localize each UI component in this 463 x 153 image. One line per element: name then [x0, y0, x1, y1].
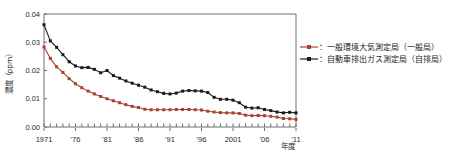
data-point-marker — [68, 77, 71, 80]
data-point-marker — [93, 68, 96, 71]
x-axis-tick-label: '91 — [165, 135, 175, 144]
legend-marker-swatch — [307, 45, 311, 49]
data-point-marker — [194, 89, 197, 92]
data-point-marker — [61, 71, 64, 74]
data-point-marker — [137, 84, 140, 87]
x-axis-unit-label: 年度 — [281, 141, 296, 151]
data-point-marker — [68, 60, 71, 63]
data-point-marker — [206, 110, 209, 113]
data-point-marker — [263, 114, 266, 117]
data-point-marker — [175, 92, 178, 95]
data-point-marker — [131, 82, 134, 85]
data-point-marker — [269, 115, 272, 118]
data-point-marker — [150, 88, 153, 91]
legend-item: ：一般環境大気測定局（一般局） — [300, 42, 439, 52]
data-point-marker — [181, 90, 184, 93]
data-point-marker — [169, 108, 172, 111]
data-point-marker — [162, 92, 165, 95]
y-axis-title-text: 濃度（ppm） — [4, 50, 14, 95]
data-point-marker — [55, 65, 58, 68]
data-point-marker — [99, 71, 102, 74]
y-axis-tick-label: 0.04 — [25, 10, 40, 19]
data-point-marker — [194, 108, 197, 111]
data-point-marker — [213, 96, 216, 99]
x-axis-tick-label: '76 — [71, 135, 81, 144]
data-point-marker — [156, 90, 159, 93]
data-point-marker — [295, 111, 298, 114]
data-point-marker — [106, 97, 109, 100]
data-point-marker — [162, 108, 165, 111]
data-point-marker — [206, 91, 209, 94]
series-1 — [43, 46, 298, 121]
x-axis-tick-label: 1971 — [36, 135, 53, 144]
data-point-marker — [131, 105, 134, 108]
data-point-marker — [118, 101, 121, 104]
data-point-marker — [118, 77, 121, 80]
y-axis-tick-label: 0.00 — [25, 123, 40, 132]
data-point-marker — [238, 101, 241, 104]
data-point-marker — [250, 107, 253, 110]
data-point-marker — [257, 114, 260, 117]
legend-item: ：自動車排出ガス測定局（自排局） — [300, 54, 447, 64]
data-point-marker — [61, 53, 64, 56]
data-point-marker — [181, 108, 184, 111]
data-point-marker — [225, 111, 228, 114]
data-point-marker — [106, 69, 109, 72]
data-point-marker — [288, 111, 291, 114]
data-point-marker — [263, 108, 266, 111]
x-axis-tick-label: 2001 — [225, 135, 242, 144]
data-point-marker — [143, 86, 146, 89]
data-point-marker — [187, 108, 190, 111]
data-point-marker — [232, 111, 235, 114]
data-point-marker — [295, 118, 298, 121]
data-point-marker — [244, 114, 247, 117]
y-axis-tick-label: 0.02 — [25, 66, 40, 75]
legend-marker-swatch — [307, 57, 311, 61]
data-point-marker — [112, 99, 115, 102]
concentration-trend-chart: 濃度（ppm） 0.000.010.020.030.04 1971'76'81'… — [0, 0, 463, 153]
data-point-marker — [276, 116, 279, 119]
data-point-marker — [93, 92, 96, 95]
series-layer — [43, 23, 298, 121]
data-point-marker — [269, 109, 272, 112]
data-point-marker — [74, 82, 77, 85]
data-point-marker — [80, 86, 83, 89]
data-point-marker — [80, 66, 83, 69]
data-point-marker — [49, 57, 52, 60]
data-point-marker — [175, 108, 178, 111]
data-point-marker — [200, 109, 203, 112]
data-point-marker — [99, 95, 102, 98]
data-point-marker — [87, 66, 90, 69]
data-point-marker — [225, 98, 228, 101]
data-point-marker — [143, 108, 146, 111]
data-point-marker — [244, 106, 247, 109]
series-2 — [43, 23, 298, 114]
data-point-marker — [169, 92, 172, 95]
data-point-marker — [282, 117, 285, 120]
legend-label: ：一般環境大気測定局（一般局） — [319, 42, 439, 52]
data-point-marker — [219, 98, 222, 101]
data-point-marker — [49, 39, 52, 42]
data-point-marker — [213, 111, 216, 114]
data-point-marker — [187, 89, 190, 92]
data-point-marker — [43, 23, 46, 26]
data-point-marker — [156, 108, 159, 111]
x-axis-tick-label: '81 — [102, 135, 112, 144]
data-point-marker — [55, 46, 58, 49]
x-axis-tick-label: '86 — [134, 135, 144, 144]
chart-legend: ：一般環境大気測定局（一般局）：自動車排出ガス測定局（自排局） — [300, 42, 447, 64]
data-point-marker — [250, 114, 253, 117]
data-point-marker — [124, 103, 127, 106]
y-axis-title: 濃度（ppm） — [4, 50, 14, 95]
data-point-marker — [232, 99, 235, 102]
data-point-marker — [200, 90, 203, 93]
data-point-marker — [288, 117, 291, 120]
data-point-marker — [74, 64, 77, 67]
data-point-marker — [137, 106, 140, 109]
data-point-marker — [238, 112, 241, 115]
data-point-marker — [87, 90, 90, 93]
legend-label: ：自動車排出ガス測定局（自排局） — [319, 54, 447, 64]
data-point-marker — [276, 111, 279, 114]
x-axis-tick-label: '96 — [197, 135, 207, 144]
data-point-marker — [257, 106, 260, 109]
